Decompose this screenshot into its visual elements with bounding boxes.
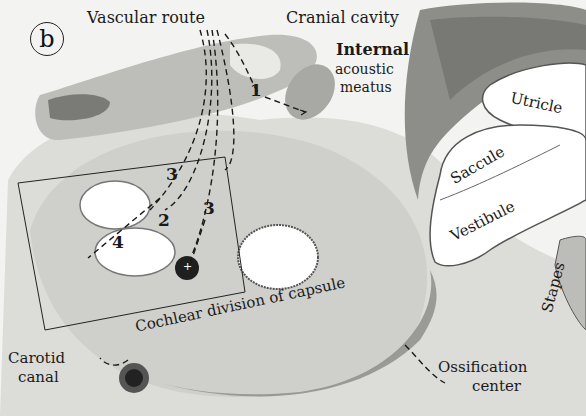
label-carotid-canal-line1: Carotid [8, 351, 65, 366]
route-number-2: 2 [158, 210, 170, 230]
route-number-4: 4 [112, 232, 124, 252]
route-number-3a: 3 [166, 164, 178, 184]
label-ossification-center-line1: Ossification [438, 360, 527, 375]
route-number-1: 1 [250, 80, 262, 100]
vessel-plus-marker: + [183, 261, 192, 272]
label-carotid-canal-line2: canal [18, 370, 59, 385]
label-internal-acoustic-meatus-line3: meatus [340, 80, 392, 94]
label-ossification-center-line2: center [472, 379, 521, 394]
label-internal-acoustic-meatus-line2: acoustic [335, 62, 394, 76]
label-internal-acoustic-meatus-line1: Internal [336, 42, 409, 58]
label-cranial-cavity: Cranial cavity [286, 10, 399, 26]
panel-label: b [39, 25, 54, 53]
route-number-3b: 3 [203, 198, 215, 218]
histology-figure: b Vascular route Cranial cavity Internal… [0, 0, 586, 416]
panel-label-badge: b [30, 22, 64, 56]
label-vascular-route: Vascular route [87, 10, 205, 26]
